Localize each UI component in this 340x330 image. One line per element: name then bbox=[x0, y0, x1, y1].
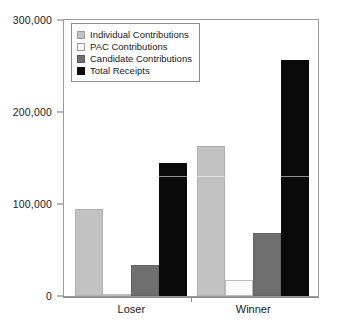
bar-winner-individual-contributions bbox=[197, 146, 225, 296]
legend-label: PAC Contributions bbox=[90, 41, 167, 52]
legend-swatch-icon bbox=[77, 43, 85, 51]
bar-loser-pac-contributions bbox=[103, 294, 131, 296]
y-tick-label: 300,000 bbox=[13, 14, 52, 26]
y-axis: 0100,000200,000300,000 bbox=[0, 0, 63, 330]
x-tick-mark bbox=[191, 297, 192, 302]
y-tick-mark bbox=[57, 20, 63, 21]
bar-chart: 0100,000200,000300,000 LoserWinner Indiv… bbox=[0, 0, 340, 330]
legend-item-individual-contributions: Individual Contributions bbox=[77, 29, 192, 40]
bar-winner-candidate-contributions bbox=[253, 233, 281, 296]
bar-loser-total-receipts bbox=[159, 163, 187, 296]
chart-legend: Individual ContributionsPAC Contribution… bbox=[71, 23, 200, 82]
y-tick-mark bbox=[57, 112, 63, 113]
legend-label: Total Receipts bbox=[90, 65, 150, 76]
legend-swatch-icon bbox=[77, 55, 85, 63]
legend-swatch-icon bbox=[77, 67, 85, 75]
y-tick-label: 0 bbox=[46, 290, 52, 302]
y-tick-mark bbox=[57, 204, 63, 205]
bar-winner-pac-contributions bbox=[225, 280, 253, 296]
y-tick-label: 100,000 bbox=[13, 198, 52, 210]
bar-loser-individual-contributions bbox=[75, 209, 103, 296]
legend-item-total-receipts: Total Receipts bbox=[77, 65, 192, 76]
bar-loser-candidate-contributions bbox=[131, 265, 159, 296]
legend-swatch-icon bbox=[77, 31, 85, 39]
legend-item-candidate-contributions: Candidate Contributions bbox=[77, 53, 192, 64]
bar-winner-total-receipts bbox=[281, 60, 309, 296]
legend-label: Individual Contributions bbox=[90, 29, 189, 40]
legend-label: Candidate Contributions bbox=[90, 53, 192, 64]
scan-artifact-line bbox=[64, 176, 318, 177]
legend-item-pac-contributions: PAC Contributions bbox=[77, 41, 192, 52]
x-axis-label-winner: Winner bbox=[236, 303, 271, 315]
y-tick-label: 200,000 bbox=[13, 106, 52, 118]
x-axis-label-loser: Loser bbox=[118, 303, 146, 315]
